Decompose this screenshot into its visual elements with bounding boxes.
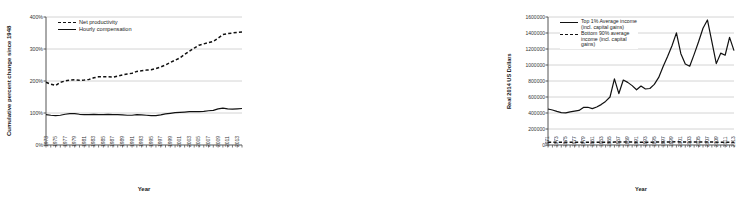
x-tick-label: 1973 [43, 136, 49, 147]
legend-label: Top 1% Average income (incl. capital gai… [581, 19, 638, 30]
x-tick-label: 1987 [109, 136, 115, 147]
legend: Top 1% Average income (incl. capital gai… [560, 19, 638, 49]
x-tick-label: 1981 [590, 136, 595, 147]
y-tick-label: 1400000 [526, 30, 545, 36]
y-tick-label: 400000 [528, 110, 545, 116]
x-tick-label: 1971 [545, 136, 550, 147]
legend-label: Bottom 90% average income (incl. capital… [581, 31, 638, 48]
plot-area [46, 17, 242, 145]
x-tick-label: 2011 [224, 136, 230, 147]
legend-item: Hourly compensation [58, 26, 168, 32]
x-tick-label: 2005 [195, 136, 201, 147]
x-tick-label: 1999 [167, 136, 173, 147]
x-tick-label: 1983 [90, 136, 96, 147]
y-tick-label: 1600000 [526, 14, 545, 20]
x-tick-label: 1977 [572, 136, 577, 147]
x-tick-label: 2007 [705, 136, 710, 147]
legend: Net productivityHourly compensation [58, 19, 168, 33]
legend-item: Bottom 90% average income (incl. capital… [560, 31, 638, 48]
x-tick-label: 1985 [100, 136, 106, 147]
y-tick-label: 100% [30, 110, 43, 116]
x-tick-label: 1981 [81, 136, 87, 147]
x-tick-label: 1985 [607, 136, 612, 147]
y-tick-label: 600000 [528, 94, 545, 100]
x-tick-label: 1973 [554, 136, 559, 147]
y-tick-label: 200% [30, 78, 43, 84]
x-tick-label: 1979 [581, 136, 586, 147]
x-tick-label: 1995 [148, 136, 154, 147]
x-tick-label: 2001 [678, 136, 683, 147]
chart-productivity-pay-gap: Cumulative percent change since 1948 0%1… [0, 0, 248, 204]
x-tick-label: 2003 [186, 136, 192, 147]
x-tick-label: 2003 [687, 136, 692, 147]
y-tick-label: 1200000 [526, 46, 545, 52]
x-tick-label: 1991 [129, 136, 135, 147]
x-tick-label: 2001 [176, 136, 182, 147]
y-tick-label: 200000 [528, 126, 545, 132]
x-tick-label: 2009 [714, 136, 719, 147]
x-tick-label: 2011 [723, 137, 728, 147]
x-tick-label: 1975 [52, 136, 58, 147]
y-tick-label: 1000000 [526, 62, 545, 68]
y-tick-label: 0% [36, 142, 44, 148]
x-axis-title: Year [46, 186, 242, 192]
legend-label: Hourly compensation [79, 26, 132, 32]
x-tick-label: 1999 [669, 136, 674, 147]
x-tick-label: 1989 [119, 136, 125, 147]
x-tick-label: 1997 [157, 136, 163, 147]
x-tick-label: 2013 [731, 136, 736, 147]
x-tick-label: 1983 [599, 136, 604, 147]
x-axis-tick-labels: 1973197519771979198119831985198719891991… [46, 147, 242, 181]
series-line [46, 108, 242, 115]
legend-label: Net productivity [79, 19, 118, 25]
x-tick-label: 1993 [643, 136, 648, 147]
series-line [46, 32, 242, 85]
legend-item: Top 1% Average income (incl. capital gai… [560, 19, 638, 30]
x-tick-label: 2005 [696, 136, 701, 147]
x-tick-label: 1993 [138, 136, 144, 147]
chart-top1-vs-bottom90-income: Real 2014 US Dollars 0200000400000600000… [248, 0, 496, 204]
x-axis-tick-labels: 1971197319751977197919811983198519871989… [548, 147, 734, 181]
y-tick-label: 400% [30, 14, 43, 20]
y-tick-label: 300% [30, 46, 43, 52]
x-tick-label: 1991 [634, 136, 639, 147]
x-tick-label: 2013 [234, 136, 240, 147]
y-axis-tick-labels: 0%100%200%300%400% [0, 17, 43, 145]
x-tick-label: 1975 [563, 136, 568, 147]
solid-line-swatch-icon [560, 22, 578, 23]
x-tick-label: 1995 [652, 136, 657, 147]
x-tick-label: 1987 [616, 136, 621, 147]
x-axis-title: Year [548, 186, 734, 192]
y-tick-label: 800000 [528, 78, 545, 84]
x-tick-label: 1979 [71, 136, 77, 147]
legend-item: Net productivity [58, 19, 168, 25]
x-tick-label: 2007 [205, 136, 211, 147]
plot-svg [46, 17, 242, 145]
dashed-line-swatch-icon [560, 34, 578, 35]
solid-line-swatch-icon [58, 29, 76, 30]
dashed-line-swatch-icon [58, 22, 76, 23]
x-tick-label: 1977 [62, 136, 68, 147]
y-axis-tick-labels: 0200000400000600000800000100000012000001… [248, 17, 545, 145]
x-tick-label: 1997 [661, 136, 666, 147]
x-tick-label: 2009 [215, 136, 221, 147]
x-tick-label: 1989 [625, 136, 630, 147]
